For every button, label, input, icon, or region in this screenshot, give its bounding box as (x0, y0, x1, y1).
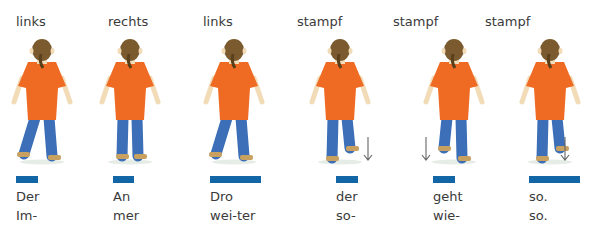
rhythm-bar (16, 176, 38, 183)
rhythm-bar (529, 176, 580, 183)
child-figure-illustration (96, 38, 166, 166)
step-label: stampf (393, 14, 438, 29)
syllable-text: Dro (210, 189, 233, 204)
syllable-text: Der (16, 189, 39, 204)
child-figure-illustration (516, 38, 586, 166)
step-label: links (203, 14, 233, 29)
syllable-text: so. (529, 208, 548, 223)
step-label: stampf (485, 14, 530, 29)
child-figure-illustration (8, 38, 78, 166)
step-label: stampf (297, 14, 342, 29)
rhythm-bar (433, 176, 455, 183)
syllable-text: so- (336, 208, 356, 223)
child-figure-illustration (200, 38, 270, 166)
rhythm-bar (113, 176, 134, 183)
syllable-text: An (113, 189, 130, 204)
down-arrow-icon (363, 136, 373, 166)
rhythm-bar (210, 176, 261, 183)
syllable-text: wie- (433, 208, 460, 223)
step-label: rechts (108, 14, 148, 29)
syllable-text: wei-ter (210, 208, 255, 223)
syllable-text: geht (433, 189, 463, 204)
down-arrow-icon (560, 136, 570, 166)
syllable-text: Im- (16, 208, 37, 223)
syllable-text: so. (529, 189, 548, 204)
syllable-text: mer (113, 208, 139, 223)
down-arrow-icon (421, 136, 431, 166)
step-label: links (16, 14, 46, 29)
rhythm-bar (336, 176, 358, 183)
syllable-text: der (336, 189, 358, 204)
